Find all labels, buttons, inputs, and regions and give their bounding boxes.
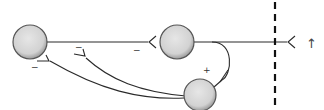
synapse-output [288, 36, 295, 48]
edge-b-to-c-branch [220, 70, 228, 82]
up-arrow-icon: ↑ [306, 36, 317, 51]
sign-a-to-b: − [133, 45, 141, 55]
sign-c-to-a: − [31, 62, 39, 72]
node-c [184, 79, 216, 110]
sign-b-to-c: + [203, 65, 211, 75]
edge-c-to-axon [86, 58, 186, 96]
sign-c-to-axon: − [75, 42, 83, 52]
synapse-a-to-b [149, 36, 156, 48]
node-b [160, 25, 194, 59]
node-a [13, 25, 47, 59]
circuit-diagram: − − − + ↑ [0, 0, 324, 110]
